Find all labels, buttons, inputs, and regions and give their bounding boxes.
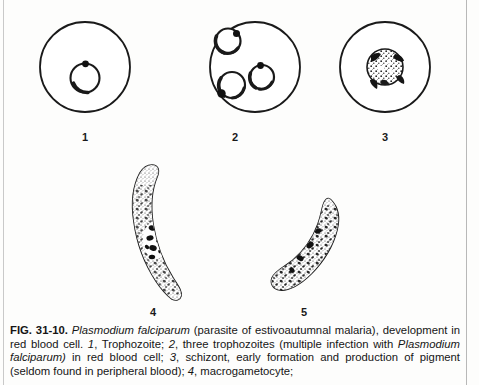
caption-segment-3: , three trophozoites (multiple infection… <box>175 338 398 350</box>
panel-label-4: 4 <box>143 306 163 318</box>
panel-label-3: 3 <box>375 131 395 143</box>
caption-species-name: Plasmodium falciparum <box>72 324 190 336</box>
panel-3-cell <box>340 22 430 112</box>
panel-label-1: 1 <box>75 131 95 143</box>
caption-segment-6: , macrogametocyte; <box>194 365 293 377</box>
caption-fig-number: FIG. 31-10. <box>10 324 68 336</box>
panel-2-cell <box>210 22 300 112</box>
plasmodium-illustration <box>0 0 479 322</box>
panel-1-cell <box>40 22 130 112</box>
panel-label-5: 5 <box>294 306 314 318</box>
panel-label-2: 2 <box>225 131 245 143</box>
figure-caption: FIG. 31-10. Plasmodium falciparum (paras… <box>10 324 460 378</box>
figure-page: 1 2 3 4 5 FIG. 31-10. Plasmodium falcipa… <box>0 0 479 385</box>
trophozoite-ring-lower-left <box>217 72 245 98</box>
caption-segment-2: , Trophozoite; <box>94 338 169 350</box>
panel-5-microgametocyte <box>265 192 345 297</box>
figure-plate: 1 2 3 4 5 <box>0 0 479 322</box>
panel-4-macrogametocyte <box>125 160 195 305</box>
caption-segment-4: in red blood cell; <box>66 351 170 363</box>
trophozoite-ring-upper-left <box>215 29 240 54</box>
